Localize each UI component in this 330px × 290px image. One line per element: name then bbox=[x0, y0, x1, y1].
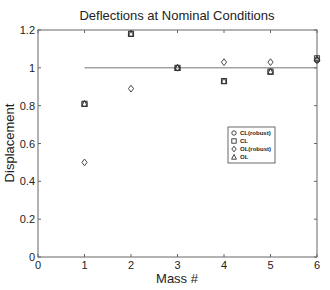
x-axis-ticks: 0123456 bbox=[35, 30, 320, 271]
x-tick-label: 4 bbox=[221, 259, 227, 271]
x-tick-label: 1 bbox=[81, 259, 87, 271]
y-tick-label: 1.2 bbox=[20, 24, 35, 36]
x-tick-label: 6 bbox=[314, 259, 320, 271]
legend: CL(robust)CLOL(robust)OL bbox=[228, 127, 275, 163]
y-tick-label: 0 bbox=[29, 251, 35, 263]
legend-label: OL bbox=[240, 154, 249, 160]
chart-title: Deflections at Nominal Conditions bbox=[79, 8, 275, 23]
legend-label: OL(robust) bbox=[240, 146, 271, 152]
x-axis-label: Mass # bbox=[156, 271, 199, 286]
x-tick-label: 2 bbox=[128, 259, 134, 271]
diamond-marker-icon bbox=[128, 85, 133, 92]
diamond-marker-icon bbox=[268, 59, 273, 66]
x-tick-label: 0 bbox=[35, 259, 41, 271]
legend-label: CL bbox=[240, 138, 248, 144]
y-tick-label: 0.2 bbox=[20, 213, 35, 225]
x-tick-label: 5 bbox=[267, 259, 273, 271]
y-tick-label: 0.6 bbox=[20, 138, 35, 150]
data-points bbox=[82, 31, 320, 166]
diamond-marker-icon bbox=[82, 159, 87, 166]
y-tick-label: 0.8 bbox=[20, 100, 35, 112]
x-tick-label: 3 bbox=[174, 259, 180, 271]
scatter-chart: Deflections at Nominal Conditions 012345… bbox=[0, 0, 330, 290]
diamond-marker-icon bbox=[221, 59, 226, 66]
legend-label: CL(robust) bbox=[240, 130, 271, 136]
y-axis-label: Displacement bbox=[2, 103, 17, 182]
y-tick-label: 0.4 bbox=[20, 175, 35, 187]
y-tick-label: 1 bbox=[29, 62, 35, 74]
